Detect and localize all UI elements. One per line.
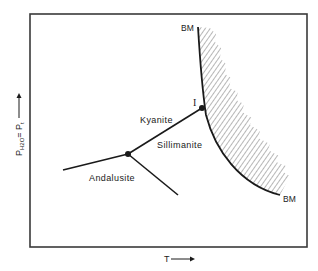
sillimanite-label: Sillimanite: [157, 140, 202, 150]
kyanite-label: Kyanite: [140, 115, 173, 125]
plot-frame: [30, 14, 307, 247]
y-axis-label: PH2O= Pt: [14, 122, 25, 156]
intersection-label: I: [193, 97, 196, 108]
bm-top-label: BM: [181, 23, 194, 33]
y-axis-arrow-icon: [17, 93, 22, 118]
phase-diagram: I BM BM Kyanite Sillimanite Andalusite T…: [0, 0, 318, 271]
andalusite-sillimanite-boundary: [128, 154, 178, 195]
andalusite-label: Andalusite: [89, 173, 135, 183]
intersection-point-marker: [199, 105, 205, 111]
x-axis-label: T: [164, 254, 170, 264]
svg-text:PH2O= Pt: PH2O= Pt: [14, 122, 25, 156]
andalusite-kyanite-boundary: [63, 154, 128, 170]
hatched-melt-region: [198, 27, 290, 195]
bm-bottom-label: BM: [283, 194, 296, 204]
x-axis-arrow-icon: [171, 257, 195, 262]
triple-point-marker: [125, 151, 131, 157]
